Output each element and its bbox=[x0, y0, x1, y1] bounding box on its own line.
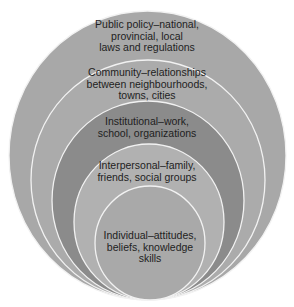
label-line: Individual–attitudes, bbox=[3, 230, 294, 242]
label-line: Community–relationships bbox=[0, 67, 294, 79]
label-interpersonal: Interpersonal–family, friends, social gr… bbox=[0, 160, 294, 183]
label-line: laws and regulations bbox=[0, 42, 294, 54]
label-line: Interpersonal–family, bbox=[0, 160, 294, 172]
label-line: skills bbox=[3, 253, 294, 265]
label-line: Institutional–work, bbox=[0, 116, 294, 128]
label-community: Community–relationships between neighbou… bbox=[0, 67, 294, 102]
label-individual: Individual–attitudes, beliefs, knowledge… bbox=[3, 230, 294, 265]
label-line: friends, social groups bbox=[0, 172, 294, 184]
label-line: Public policy–national, bbox=[0, 19, 294, 31]
label-institutional: Institutional–work, school, organization… bbox=[0, 116, 294, 139]
label-line: school, organizations bbox=[0, 128, 294, 140]
label-line: towns, cities bbox=[0, 90, 294, 102]
label-public-policy: Public policy–national, provincial, loca… bbox=[0, 19, 294, 54]
